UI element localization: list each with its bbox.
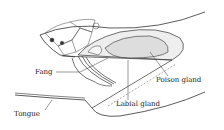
poison-gland-label: Poison gland — [156, 77, 201, 84]
diagram-canvas: Fang Poison gland Labial gland Tongue — [0, 0, 224, 130]
labial-gland-label: Labial gland — [116, 101, 160, 108]
fang-label: Fang — [35, 69, 53, 76]
fang-illustration — [72, 56, 116, 85]
tongue-label: Tongue — [14, 111, 40, 118]
